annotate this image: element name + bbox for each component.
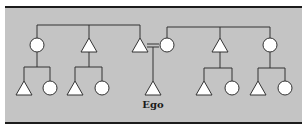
female-node-cousin (95, 81, 109, 95)
female-node-right-3 (263, 38, 277, 52)
male-node-cousin (250, 81, 266, 95)
male-node-cousin (196, 81, 212, 95)
male-node-right-2 (212, 38, 228, 52)
female-node-cousin (225, 81, 239, 95)
female-node-ego-mother (160, 38, 174, 52)
male-node-cousin (67, 81, 83, 95)
kinship-diagram: Ego (0, 0, 306, 130)
ego-label: Ego (142, 99, 164, 110)
male-node-ego-father (132, 38, 148, 52)
female-node-cousin (278, 81, 292, 95)
ego-node (145, 81, 161, 95)
female-node-left-1 (30, 38, 44, 52)
female-node-cousin (43, 81, 57, 95)
connector-lines (24, 25, 285, 81)
male-node-cousin (16, 81, 32, 95)
male-node-left-2 (81, 38, 97, 52)
